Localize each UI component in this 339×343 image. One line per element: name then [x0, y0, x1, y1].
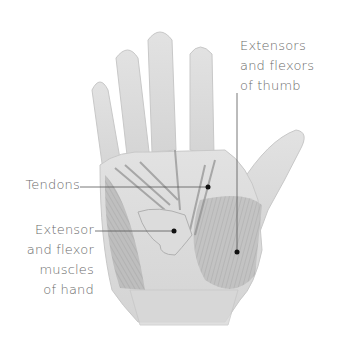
label-hand-muscles: Extensor and flexor muscles of hand	[10, 220, 94, 300]
hand-anatomy-diagram: Extensors and flexors of thumb Tendons E…	[0, 0, 339, 343]
label-tendons: Tendons	[14, 175, 80, 195]
label-thumb-muscles: Extensors and flexors of thumb	[240, 36, 314, 96]
